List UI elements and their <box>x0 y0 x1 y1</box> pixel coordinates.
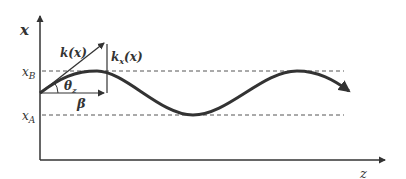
horizontal-axis-label: z <box>359 166 367 179</box>
upper-level-label: xB <box>22 65 36 81</box>
lower-level-label: xA <box>22 109 36 125</box>
vertical-axis-label: x <box>19 21 30 39</box>
kx-vector-label: kx(x) <box>111 50 143 66</box>
beta-label: β <box>76 96 86 111</box>
angle-label: θz <box>64 79 77 95</box>
k-vector-label: k(x) <box>60 46 87 60</box>
wave-diagram: x z xB xA k(x) kx(x) θz β <box>0 0 406 179</box>
